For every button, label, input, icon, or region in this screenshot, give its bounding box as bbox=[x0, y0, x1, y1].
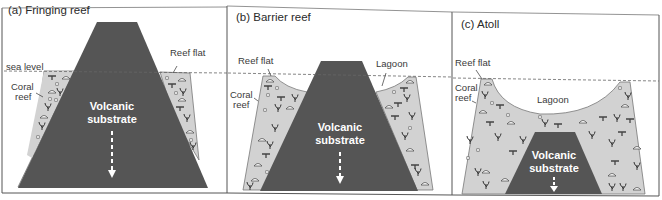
volcanic-label-b-line2: substrate bbox=[312, 135, 368, 147]
reef-flat-label-c: Reef flat bbox=[455, 58, 490, 68]
volcanic-label-a-line2: substrate bbox=[84, 114, 140, 126]
panel-c-graphics bbox=[453, 70, 659, 194]
lagoon-label-b: Lagoon bbox=[376, 59, 408, 69]
volcanic-label-c-line1: Volcanic bbox=[529, 150, 579, 162]
volcanic-label-b-line1: Volcanic bbox=[315, 122, 365, 134]
coral-reef-label-a-line2: reef bbox=[15, 92, 31, 102]
panel-b-title: (b) Barrier reef bbox=[236, 11, 311, 23]
coral-reef-label-c-line2: reef bbox=[455, 93, 471, 103]
sea-level-label: sea level bbox=[6, 62, 44, 72]
reef-formation-diagram: (a) Fringing reef sea level Coral reef R… bbox=[0, 0, 662, 200]
volcanic-label-a-line1: Volcanic bbox=[87, 101, 137, 113]
reef-flat-label-b: Reef flat bbox=[238, 56, 273, 66]
panel-a-title: (a) Fringing reef bbox=[8, 4, 90, 16]
reef-flat-label-a: Reef flat bbox=[170, 48, 205, 58]
coral-reef-label-b-line2: reef bbox=[233, 100, 249, 110]
panel-c-title: (c) Atoll bbox=[461, 18, 499, 30]
volcanic-label-c-line2: substrate bbox=[526, 163, 582, 175]
lagoon-label-c: Lagoon bbox=[537, 95, 569, 105]
